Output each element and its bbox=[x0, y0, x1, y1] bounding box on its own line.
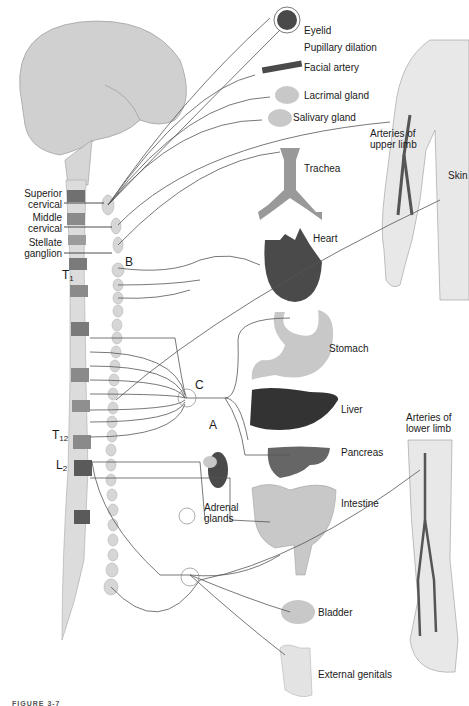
marker-b: B bbox=[125, 257, 133, 268]
spinal-cord bbox=[62, 180, 92, 640]
label-pupillary-dilation: Pupillary dilation bbox=[304, 42, 377, 53]
sympathetic-diagram: Superiorcervical Middlecervical Stellate… bbox=[0, 0, 469, 706]
label-external-genitals: External genitals bbox=[318, 669, 392, 680]
organs bbox=[203, 7, 338, 697]
label-pancreas: Pancreas bbox=[341, 447, 383, 458]
diagram-artwork bbox=[0, 0, 469, 706]
superior-cervical-label: Superiorcervical bbox=[2, 188, 62, 210]
label-salivary-gland: Salivary gland bbox=[293, 112, 356, 123]
sympathetic-chain bbox=[102, 195, 124, 595]
label-adrenal-glands: Adrenalglands bbox=[204, 502, 238, 524]
figure-caption: FIGURE 3-7 bbox=[12, 700, 61, 706]
leg-illustration bbox=[408, 440, 458, 672]
marker-c: C bbox=[195, 380, 204, 391]
label-skin: Skin bbox=[448, 170, 467, 181]
label-arteries-lower-limb: Arteries oflower limb bbox=[406, 412, 452, 434]
label-trachea: Trachea bbox=[304, 163, 340, 174]
label-intestine: Intestine bbox=[341, 498, 379, 509]
label-facial-artery: Facial artery bbox=[304, 62, 359, 73]
ganglion-circles bbox=[178, 389, 199, 586]
marker-a: A bbox=[209, 420, 217, 431]
label-liver: Liver bbox=[341, 404, 363, 415]
label-lacrimal-gland: Lacrimal gland bbox=[304, 90, 369, 101]
level-l2-label: L2 bbox=[56, 460, 67, 474]
label-eyelid: Eyelid bbox=[304, 25, 331, 36]
label-arteries-upper-limb: Arteries ofupper limb bbox=[370, 128, 417, 150]
label-heart: Heart bbox=[313, 233, 337, 244]
label-bladder: Bladder bbox=[318, 607, 352, 618]
brain-illustration bbox=[20, 21, 187, 185]
level-t12-label: T12 bbox=[52, 430, 68, 444]
level-t1-label: T1 bbox=[62, 270, 74, 284]
label-stomach: Stomach bbox=[329, 343, 368, 354]
middle-cervical-label: Middlecervical bbox=[2, 212, 62, 234]
stellate-ganglion-label: Stellateganglion bbox=[2, 237, 62, 259]
